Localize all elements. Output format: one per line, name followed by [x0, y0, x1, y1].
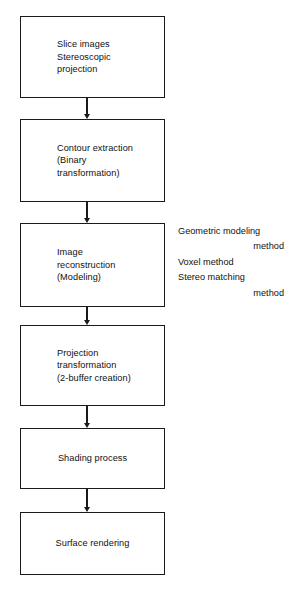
arrow-stem — [86, 406, 87, 424]
flow-arrow-3 — [81, 307, 93, 325]
flowchart-node-surface-rendering: Surface rendering — [20, 512, 165, 575]
annotation-line: Geometric modeling — [178, 224, 300, 239]
annotation-line: Voxel method — [178, 255, 300, 270]
arrow-stem — [86, 98, 87, 115]
annotation-line: method — [178, 286, 300, 301]
flow-arrow-1 — [81, 98, 93, 119]
annotation-line: Stereo matching — [178, 270, 300, 285]
node-label: Shading process — [58, 452, 127, 464]
flow-arrow-2 — [81, 202, 93, 223]
flowchart-node-contour-extraction: Contour extraction (Binary transformatio… — [20, 119, 165, 202]
node-label: Slice images Stereoscopic projection — [21, 38, 111, 75]
flowchart-node-slice-images: Slice images Stereoscopic projection — [20, 16, 165, 98]
flowchart-node-image-reconstruction: Image reconstruction (Modeling) — [20, 223, 165, 307]
flowchart-diagram: Slice images Stereoscopic projection Con… — [0, 0, 306, 590]
node-label: Image reconstruction (Modeling) — [21, 246, 115, 283]
node-label: Contour extraction (Binary transformatio… — [21, 142, 133, 179]
annotation-modeling-methods: Geometric modeling method Voxel method S… — [178, 224, 300, 301]
arrow-stem — [86, 489, 87, 508]
arrow-stem — [86, 307, 87, 321]
annotation-line: method — [178, 239, 300, 254]
node-label: Surface rendering — [56, 537, 130, 549]
flowchart-node-shading-process: Shading process — [20, 428, 165, 489]
flowchart-node-projection-transformation: Projection transformation (2-buffer crea… — [20, 325, 165, 406]
flow-arrow-4 — [81, 406, 93, 428]
node-label: Projection transformation (2-buffer crea… — [21, 347, 131, 384]
arrow-stem — [86, 202, 87, 219]
flow-arrow-5 — [81, 489, 93, 512]
